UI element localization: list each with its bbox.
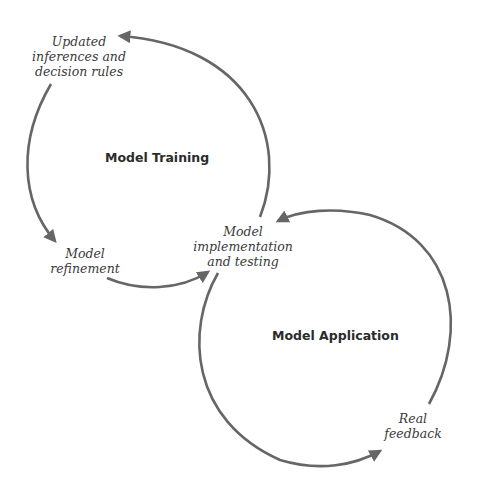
node-updated-inferences: Updated inferences and decision rules: [28, 34, 130, 79]
arrow-implementation-to-feedback: [199, 273, 380, 466]
node-model-implementation: Model implementation and testing: [188, 224, 298, 269]
arrow-updated-to-refinement: [27, 84, 55, 241]
cycle-diagram: Updated inferences and decision rules Mo…: [0, 0, 477, 485]
node-model-refinement: Model refinement: [40, 246, 130, 276]
arrow-feedback-to-implementation: [278, 210, 451, 404]
arrow-implementation-to-updated: [120, 36, 269, 217]
cycle-title-training: Model Training: [105, 150, 209, 165]
node-real-feedback: Real feedback: [378, 411, 448, 441]
cycle-title-application: Model Application: [272, 328, 399, 343]
